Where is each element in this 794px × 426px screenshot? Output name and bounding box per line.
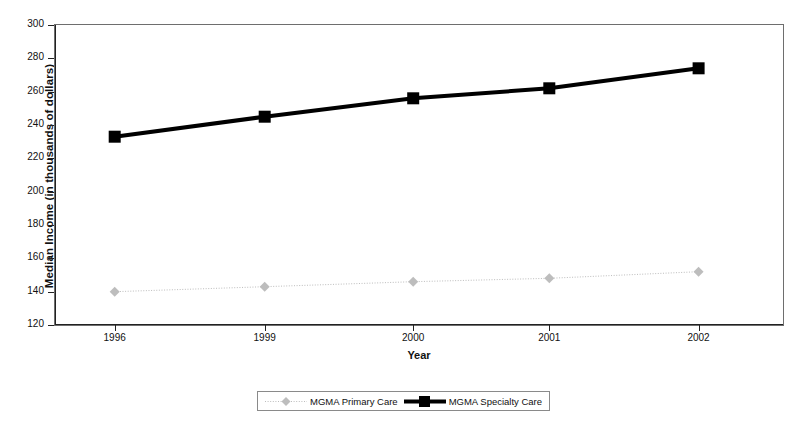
data-point-marker — [544, 273, 554, 283]
x-axis-tick-label: 2002 — [659, 332, 739, 343]
data-point-marker — [407, 92, 419, 104]
x-axis-tick-mark — [549, 325, 550, 331]
y-axis-tick-label: 120 — [27, 318, 44, 329]
y-axis-tick-label: 300 — [27, 18, 44, 29]
legend-item: MGMA Primary Care — [265, 392, 398, 410]
plot-area — [54, 24, 784, 326]
data-point-marker — [543, 82, 555, 94]
legend-label: MGMA Specialty Care — [449, 396, 542, 407]
line-chart-figure: Median Income (in thousands of dollars) … — [0, 0, 794, 426]
data-point-marker — [260, 282, 270, 292]
y-axis-tick-label: 180 — [27, 218, 44, 229]
y-axis-tick-label: 240 — [27, 118, 44, 129]
series-line — [115, 68, 699, 136]
legend-item: MGMA Specialty Care — [404, 392, 542, 410]
x-axis-tick-label: 2001 — [509, 332, 589, 343]
data-point-marker — [109, 131, 121, 143]
y-axis-tick-label: 160 — [27, 251, 44, 262]
x-axis-tick-mark — [265, 325, 266, 331]
legend-swatch — [265, 396, 307, 407]
series-specialty-care — [109, 62, 705, 142]
legend-label: MGMA Primary Care — [310, 396, 398, 407]
x-axis-tick-mark — [413, 325, 414, 331]
x-axis-tick-label: 1996 — [75, 332, 155, 343]
series-canvas — [55, 25, 783, 325]
data-point-marker — [694, 267, 704, 277]
data-point-marker — [110, 287, 120, 297]
chart-legend: MGMA Primary CareMGMA Specialty Care — [257, 391, 550, 411]
x-axis-tick-label: 1999 — [225, 332, 305, 343]
data-point-marker — [408, 277, 418, 287]
data-point-marker — [259, 111, 271, 123]
series-primary-care — [110, 267, 704, 297]
y-axis-tick-label: 200 — [27, 185, 44, 196]
x-axis-tick-label: 2000 — [373, 332, 453, 343]
series-line — [115, 272, 699, 292]
x-axis-tick-mark — [699, 325, 700, 331]
y-axis-tick-label: 140 — [27, 285, 44, 296]
data-point-marker — [693, 62, 705, 74]
y-axis-tick-label: 280 — [27, 51, 44, 62]
y-axis-tick-label: 260 — [27, 85, 44, 96]
x-axis-tick-mark — [115, 325, 116, 331]
x-axis-title: Year — [54, 349, 784, 361]
y-axis-tick-label: 220 — [27, 151, 44, 162]
legend-swatch — [404, 396, 446, 407]
